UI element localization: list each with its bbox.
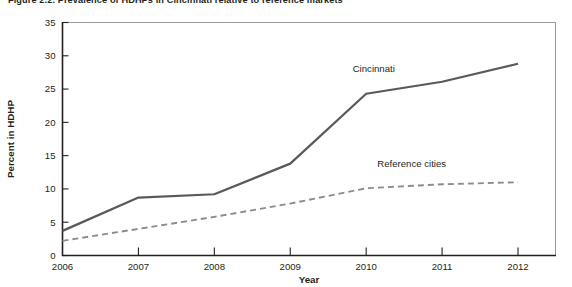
series-label-cincinnati: Cincinnati [353, 63, 395, 74]
x-axis-title: Year [299, 274, 320, 285]
plot-frame [63, 23, 556, 256]
y-tick-label: 25 [45, 83, 56, 94]
y-tick-label: 30 [45, 50, 56, 61]
series-labels: CincinnatiReference cities [353, 63, 447, 169]
y-tick-label: 0 [50, 250, 55, 261]
y-axis-ticks: 05101520253035 [45, 17, 69, 261]
y-tick-label: 5 [50, 217, 55, 228]
x-tick-label: 2007 [128, 261, 149, 272]
y-tick-label: 20 [45, 117, 56, 128]
line-chart: 05101520253035 2006200720082009201020112… [0, 0, 572, 287]
y-tick-label: 15 [45, 150, 56, 161]
series-label-reference-cities: Reference cities [377, 158, 446, 169]
y-tick-label: 10 [45, 183, 56, 194]
series-line-cincinnati [63, 64, 519, 231]
y-axis-title: Percent in HDHP [5, 100, 16, 178]
figure-container: Figure 2.2. Prevalence of HDHPs in Cinci… [0, 0, 572, 287]
x-tick-label: 2008 [204, 261, 225, 272]
x-tick-label: 2010 [355, 261, 376, 272]
series-line-reference-cities [63, 182, 519, 241]
x-tick-label: 2009 [280, 261, 301, 272]
x-axis-ticks: 2006200720082009201020112012 [52, 248, 529, 272]
x-tick-label: 2012 [507, 261, 528, 272]
x-tick-label: 2006 [52, 261, 73, 272]
series-group [63, 64, 519, 241]
x-tick-label: 2011 [432, 261, 453, 272]
y-tick-label: 35 [45, 17, 56, 28]
